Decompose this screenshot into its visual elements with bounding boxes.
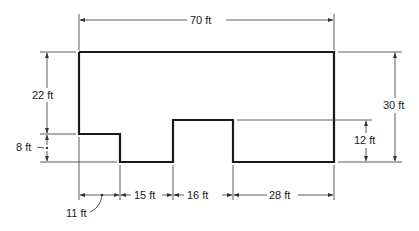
dim-label-bottom-segment-2: 15 ft bbox=[133, 189, 156, 201]
dim-label-left-lower-height: 8 ft bbox=[15, 141, 32, 153]
dimension-lines bbox=[37, 20, 395, 212]
extension-lines bbox=[40, 14, 402, 200]
dim-label-overall-height: 30 ft bbox=[382, 99, 405, 111]
floor-plan-diagram: 70 ft 22 ft 8 ft 12 ft 30 ft 11 ft 15 ft… bbox=[0, 0, 419, 231]
dim-label-bottom-segment-4: 28 ft bbox=[268, 189, 291, 201]
dim-label-bottom-segment-3: 16 ft bbox=[186, 189, 209, 201]
dim-label-left-upper-height: 22 ft bbox=[31, 89, 54, 101]
dim-label-overall-width: 70 ft bbox=[189, 14, 212, 26]
dim-label-notch-height: 12 ft bbox=[353, 134, 376, 146]
building-outline bbox=[79, 52, 334, 162]
dim-label-bottom-segment-1: 11 ft bbox=[65, 207, 88, 219]
diagram-drawing bbox=[0, 0, 419, 231]
